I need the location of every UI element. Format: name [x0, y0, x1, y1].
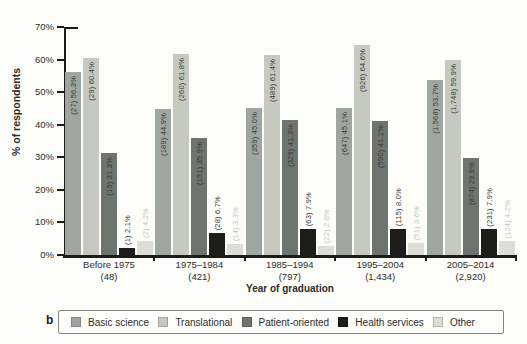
bar-label: (1,568) 53.7%	[430, 84, 439, 134]
x-axis-line	[63, 255, 517, 258]
y-tick-mark	[57, 254, 64, 256]
panel-label: b	[46, 313, 53, 327]
category-count: (48)	[63, 271, 155, 283]
y-tick-mark	[57, 124, 64, 126]
y-tick-label: 30%	[20, 151, 54, 163]
plot-area: (27) 56.3%(29) 60.4%(15) 31.3%(1) 2.1%(2…	[64, 27, 516, 255]
bar-label: (15) 31.3%	[105, 157, 114, 196]
category-count: (421)	[153, 271, 245, 283]
legend-label: Translational	[175, 317, 232, 328]
y-tick-mark	[57, 91, 64, 93]
y-tick-mark	[57, 221, 64, 223]
bar-label: (329) 41.3%	[285, 124, 294, 167]
bar-chart-figure: % of respondents 0%10%20%30%40%50%60%70%…	[0, 0, 527, 344]
y-tick-mark	[57, 156, 64, 158]
category-label: 2005–2014(2,920)	[425, 259, 517, 282]
bar-label: (51) 3.6%	[412, 206, 421, 240]
bar-label: (27) 56.3%	[69, 76, 78, 115]
y-tick-label: 60%	[20, 54, 54, 66]
bar-label: (14) 3.3%	[231, 207, 240, 241]
bar-label: (1,748) 59.9%	[448, 64, 457, 114]
bar-label: (926) 64.6%	[358, 49, 367, 92]
bar-label: (231) 7.9%	[484, 188, 493, 227]
legend: Basic scienceTranslationalPatient-orient…	[58, 310, 504, 334]
y-tick-label: 40%	[20, 119, 54, 131]
category-count: (1,434)	[334, 271, 426, 283]
y-tick-label: 10%	[20, 216, 54, 228]
category-range: 1975–1984	[153, 259, 245, 271]
bar	[318, 246, 334, 255]
bar-label: (647) 45.1%	[340, 112, 349, 155]
category-range: Before 1975	[63, 259, 155, 271]
bar	[390, 229, 406, 255]
bar-label: (151) 35.9%	[195, 142, 204, 185]
bar	[300, 229, 316, 255]
bar	[481, 229, 497, 255]
category-label: Before 1975(48)	[63, 259, 155, 282]
category-count: (797)	[244, 271, 336, 283]
bar-label: (1) 2.1%	[123, 215, 132, 245]
legend-item: Other	[433, 317, 475, 328]
legend-item: Health services	[338, 317, 423, 328]
bar-label: (63) 7.9%	[303, 192, 312, 226]
bar-label: (260) 61.8%	[177, 58, 186, 101]
y-tick-mark	[57, 26, 64, 28]
category-range: 1985–1994	[244, 259, 336, 271]
bar-label: (874) 29.9%	[466, 162, 475, 205]
legend-label: Patient-oriented	[259, 317, 330, 328]
y-tick-label: 50%	[20, 86, 54, 98]
category-count: (2,920)	[425, 271, 517, 283]
bar	[227, 244, 243, 255]
y-tick-label: 0%	[20, 249, 54, 261]
legend-item: Basic science	[71, 317, 149, 328]
bar-label: (359) 45.0%	[249, 112, 258, 155]
bar	[119, 248, 135, 255]
legend-label: Health services	[355, 317, 423, 328]
category-range: 2005–2014	[425, 259, 517, 271]
legend-item: Translational	[158, 317, 232, 328]
bar-label: (124) 4.2%	[502, 200, 511, 239]
bar-label: (2) 4.2%	[141, 208, 150, 238]
legend-swatch	[158, 317, 168, 327]
legend-swatch	[433, 317, 443, 327]
bar	[408, 243, 424, 255]
bar-label: (115) 8.0%	[394, 188, 403, 226]
bar	[209, 233, 225, 255]
bar-label: (29) 60.4%	[87, 62, 96, 101]
bar-label: (189) 44.9%	[159, 113, 168, 156]
category-range: 1995–2004	[334, 259, 426, 271]
legend-label: Other	[450, 317, 475, 328]
bar	[499, 241, 515, 255]
bar-label: (28) 6.7%	[213, 196, 222, 230]
legend-swatch	[338, 317, 348, 327]
bar-label: (489) 61.4%	[267, 59, 276, 102]
legend-swatch	[242, 317, 252, 327]
y-tick-label: 70%	[20, 21, 54, 33]
bar-label: (590) 41.1%	[376, 125, 385, 168]
category-label: 1975–1984(421)	[153, 259, 245, 282]
legend-swatch	[71, 317, 81, 327]
bar-label: (22) 2.8%	[321, 209, 330, 243]
y-tick-label: 20%	[20, 184, 54, 196]
y-tick-mark	[57, 59, 64, 61]
category-label: 1985–1994(797)	[244, 259, 336, 282]
y-tick-mark	[57, 189, 64, 191]
x-axis-title: Year of graduation	[64, 283, 516, 294]
legend-label: Basic science	[88, 317, 149, 328]
bar	[137, 241, 153, 255]
legend-item: Patient-oriented	[242, 317, 330, 328]
category-label: 1995–2004(1,434)	[334, 259, 426, 282]
